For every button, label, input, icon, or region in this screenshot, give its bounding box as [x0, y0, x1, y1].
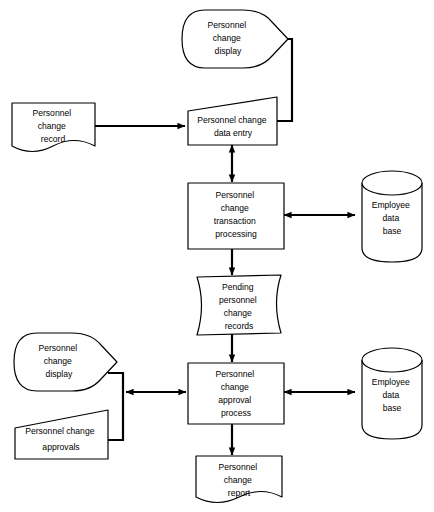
node-display-bottom[interactable]: Personnel change display: [14, 333, 117, 391]
node-approvals-input[interactable]: Personnel change approvals: [15, 410, 108, 459]
node-approval-process[interactable]: Personnel change approval process: [188, 363, 284, 424]
node-data-entry[interactable]: Personnel change data entry: [188, 97, 277, 145]
node-change-report[interactable]: Personnel change report: [196, 456, 282, 503]
flowchart-canvas: Personnel change display Personnel chang…: [0, 0, 434, 512]
node-employee-db-top[interactable]: Employee data base: [362, 171, 422, 262]
node-display-top[interactable]: Personnel change display: [182, 10, 288, 68]
node-pending-records[interactable]: Pending personnel change records: [197, 275, 281, 335]
connector-left-bracket: [108, 373, 123, 440]
node-record-input[interactable]: Personnel change record: [12, 103, 95, 152]
node-transaction-processing[interactable]: Personnel change transaction processing: [188, 183, 284, 249]
flowchart-svg: Personnel change display Personnel chang…: [0, 0, 434, 512]
database-bottom-ellipse-top: [362, 348, 422, 372]
node-employee-db-bottom[interactable]: Employee data base: [362, 348, 422, 439]
database-top-ellipse-top: [362, 171, 422, 195]
